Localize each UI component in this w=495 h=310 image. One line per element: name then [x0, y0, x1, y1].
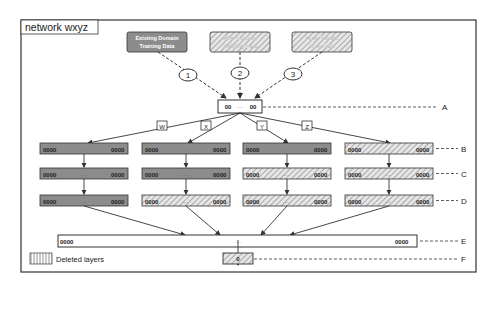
label-d: D	[461, 197, 467, 206]
input-new-domain-test: New Domain Test Data	[292, 32, 352, 52]
svg-text:0000: 0000	[111, 147, 125, 153]
label-e: E	[461, 237, 466, 246]
svg-text:0000: 0000	[213, 147, 227, 153]
svg-text:0000: 0000	[246, 147, 260, 153]
svg-text:Z: Z	[305, 124, 309, 130]
svg-text:0000: 0000	[246, 172, 260, 178]
label-c: C	[461, 170, 467, 179]
svg-text:0000: 0000	[314, 172, 328, 178]
svg-text:···: ···	[283, 147, 289, 153]
svg-text:W: W	[159, 124, 165, 130]
svg-text:New Domain: New Domain	[305, 35, 339, 41]
column-arrows	[84, 154, 389, 194]
svg-text:0000: 0000	[111, 199, 125, 205]
legend: Deleted layers	[30, 253, 104, 264]
svg-text:0000: 0000	[416, 172, 430, 178]
merge-arrows	[84, 206, 389, 235]
branch-arrows	[88, 113, 390, 143]
svg-text:···: ···	[182, 199, 188, 205]
svg-text:···: ···	[182, 147, 188, 153]
diagram-canvas: network wxyz Existing Domain Training Da…	[0, 0, 495, 310]
branch-label-z: Z	[302, 121, 312, 130]
svg-text:0000: 0000	[43, 199, 57, 205]
branch-label-x: X	[201, 121, 211, 130]
frame-title: network wxyz	[25, 21, 88, 33]
layer-e: 0000 0000 ···	[58, 235, 417, 247]
legend-swatch	[30, 253, 52, 264]
svg-text:X: X	[204, 124, 208, 130]
svg-text:Y: Y	[260, 124, 264, 130]
legend-label: Deleted layers	[56, 255, 104, 264]
svg-text:0000: 0000	[145, 172, 159, 178]
svg-text:Training Data: Training Data	[140, 43, 176, 49]
svg-text:0000: 0000	[395, 239, 409, 245]
input-new-domain-training: New Domain Training Data	[210, 32, 270, 52]
svg-text:0000: 0000	[43, 172, 57, 178]
layer-a: 00 ··· 00	[218, 100, 262, 113]
row-label-lines	[436, 149, 458, 201]
svg-text:···: ···	[80, 199, 86, 205]
step-3: 3	[284, 68, 302, 80]
svg-text:···: ···	[182, 172, 188, 178]
svg-text:0000: 0000	[314, 147, 328, 153]
svg-text:0000: 0000	[416, 199, 430, 205]
svg-text:Training Data: Training Data	[223, 43, 259, 49]
svg-text:···: ···	[385, 199, 391, 205]
svg-text:0000: 0000	[213, 172, 227, 178]
svg-text:0000: 0000	[314, 199, 328, 205]
svg-text:0000: 0000	[43, 147, 57, 153]
svg-text:···: ···	[283, 199, 289, 205]
svg-text:1: 1	[186, 71, 191, 80]
label-b: B	[461, 145, 466, 154]
svg-text:···: ···	[80, 147, 86, 153]
label-f: F	[461, 255, 466, 264]
svg-text:···: ···	[385, 172, 391, 178]
svg-text:0000: 0000	[145, 147, 159, 153]
svg-text:0000: 0000	[348, 199, 362, 205]
branch-label-y: Y	[257, 121, 267, 130]
svg-text:0000: 0000	[246, 199, 260, 205]
layer-f: 0	[223, 253, 253, 264]
branch-label-w: W	[157, 121, 167, 130]
svg-text:···: ···	[237, 104, 243, 110]
svg-text:0000: 0000	[213, 199, 227, 205]
svg-text:2: 2	[238, 69, 243, 78]
svg-text:3: 3	[291, 70, 296, 79]
svg-text:00: 00	[225, 104, 232, 110]
svg-text:0000: 0000	[111, 172, 125, 178]
svg-text:00: 00	[250, 104, 257, 110]
svg-text:0000: 0000	[60, 239, 74, 245]
svg-text:0000: 0000	[416, 147, 430, 153]
svg-text:0000: 0000	[348, 147, 362, 153]
svg-text:0000: 0000	[145, 199, 159, 205]
svg-text:···: ···	[283, 172, 289, 178]
svg-text:···: ···	[80, 172, 86, 178]
input-existing-domain-training: Existing Domain Training Data	[127, 32, 187, 52]
label-a: A	[442, 103, 448, 112]
step-1: 1	[179, 69, 197, 81]
svg-text:0000: 0000	[348, 172, 362, 178]
svg-text:Existing Domain: Existing Domain	[135, 35, 179, 41]
svg-text:New Domain: New Domain	[223, 35, 257, 41]
step-2: 2	[231, 67, 249, 79]
svg-text:Test Data: Test Data	[310, 43, 335, 49]
svg-text:···: ···	[385, 147, 391, 153]
